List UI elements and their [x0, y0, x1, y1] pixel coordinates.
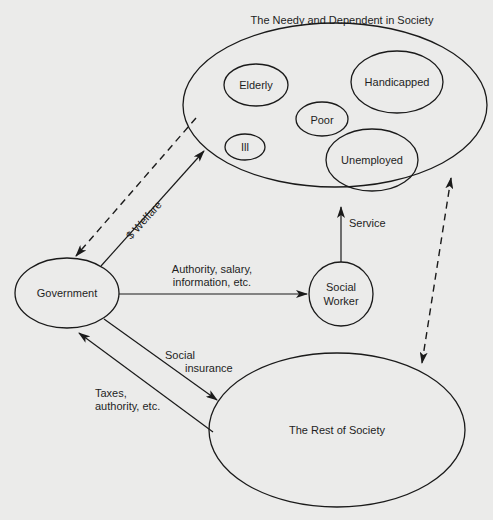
ill-label: Ill — [241, 141, 249, 153]
taxes-label-line2: authority, etc. — [95, 400, 160, 412]
elderly-label: Elderly — [239, 79, 273, 91]
government-label: Government — [37, 287, 98, 299]
social-insurance-label-line2: insurance — [185, 362, 233, 374]
unemployed-label: Unemployed — [341, 154, 403, 166]
service-label: Service — [349, 217, 386, 229]
welfare-label: $ Welfare — [124, 198, 164, 241]
diagram-title: The Needy and Dependent in Society — [251, 14, 434, 26]
authority-label-line1: Authority, salary, — [172, 263, 252, 275]
social-worker-circle — [309, 262, 373, 326]
social-worker-label-line1: Social — [326, 281, 356, 293]
needy-group-ellipse — [183, 23, 487, 187]
poor-label: Poor — [310, 114, 334, 126]
needy-rest-dashed-bidirectional-arrow — [422, 178, 451, 363]
social-insurance-label-line1: Social — [165, 349, 195, 361]
authority-label-line2: information, etc. — [173, 276, 251, 288]
diagram-canvas: The Needy and Dependent in Society Elder… — [0, 0, 493, 520]
rest-of-society-label: The Rest of Society — [289, 424, 385, 436]
handicapped-label: Handicapped — [365, 76, 430, 88]
social-worker-label-line2: Worker — [323, 295, 359, 307]
taxes-label-line1: Taxes, — [95, 387, 127, 399]
